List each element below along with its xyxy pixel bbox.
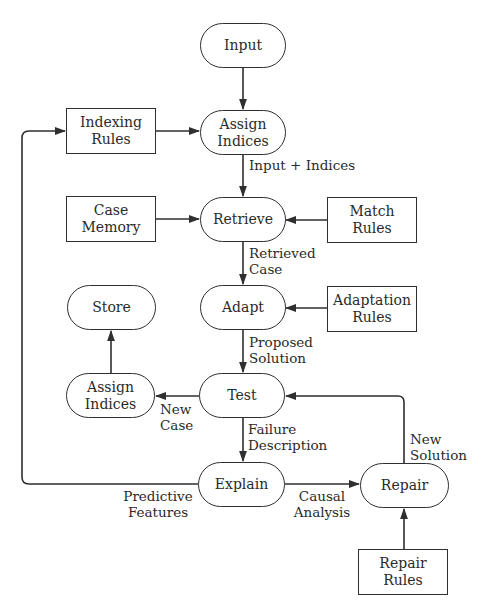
node-repair-rules: Repair Rules	[358, 549, 448, 595]
node-store: Store	[67, 285, 156, 330]
node-adapt: Adapt	[200, 285, 286, 330]
node-explain: Explain	[198, 462, 285, 507]
label-proposed-solution: Proposed Solution	[249, 334, 313, 366]
node-repair: Repair	[360, 463, 449, 508]
node-assign-indices-bottom: Assign Indices	[66, 373, 155, 418]
node-adaptation-rules: Adaptation Rules	[327, 286, 417, 332]
node-test: Test	[199, 373, 285, 418]
label-new-solution: New Solution	[410, 431, 467, 463]
label-predictive-features: Predictive Features	[118, 488, 198, 520]
node-retrieve: Retrieve	[200, 197, 286, 242]
node-indexing-rules: Indexing Rules	[66, 108, 156, 154]
node-case-memory: Case Memory	[66, 196, 156, 242]
node-assign-indices-top: Assign Indices	[200, 110, 286, 155]
label-retrieved-case: Retrieved Case	[249, 245, 316, 277]
label-causal-analysis: Causal Analysis	[286, 488, 358, 520]
label-failure-description: Failure Description	[248, 421, 327, 453]
label-new-case: New Case	[160, 401, 193, 433]
node-match-rules: Match Rules	[327, 197, 417, 243]
node-input: Input	[200, 23, 286, 68]
label-input-plus-indices: Input + Indices	[249, 157, 355, 173]
cbr-flowchart: Input Assign Indices Indexing Rules Case…	[0, 0, 489, 608]
